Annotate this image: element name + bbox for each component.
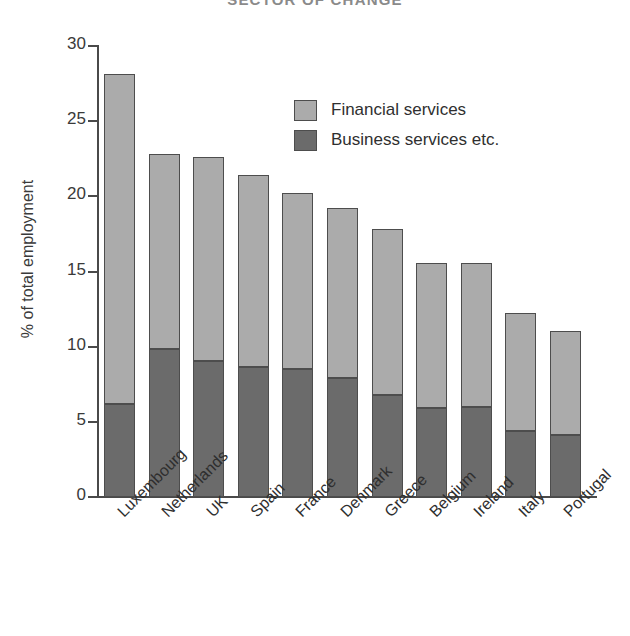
y-tick-label-20: 20 <box>12 184 86 204</box>
bar-belgium[interactable] <box>416 263 447 497</box>
bar-segment-financial-services[interactable] <box>238 175 269 368</box>
bar-segment-financial-services[interactable] <box>282 193 313 369</box>
bar-segment-financial-services[interactable] <box>416 263 447 408</box>
bar-segment-business-services[interactable] <box>282 369 313 497</box>
legend-swatch-business-services <box>294 130 317 151</box>
bar-segment-business-services[interactable] <box>104 404 135 497</box>
y-tick-20 <box>88 195 99 197</box>
bar-greece[interactable] <box>372 229 403 497</box>
y-tick-15 <box>88 271 99 273</box>
legend-swatch-financial-services <box>294 100 317 121</box>
y-tick-0 <box>88 496 99 498</box>
legend-item-business-services: Business services etc. <box>294 127 499 153</box>
y-tick-label-5: 5 <box>12 410 86 430</box>
y-tick-label-0: 0 <box>12 485 86 505</box>
bar-spain[interactable] <box>238 175 269 497</box>
bar-segment-business-services[interactable] <box>550 435 581 497</box>
legend-label-financial-services: Financial services <box>331 100 466 120</box>
y-tick-label-25: 25 <box>12 109 86 129</box>
legend-label-business-services: Business services etc. <box>331 130 499 150</box>
bar-segment-financial-services[interactable] <box>372 229 403 395</box>
bar-uk[interactable] <box>193 157 224 498</box>
bar-segment-business-services[interactable] <box>238 367 269 497</box>
y-tick-30 <box>88 45 99 47</box>
bar-italy[interactable] <box>505 313 536 497</box>
y-tick-label-30: 30 <box>12 34 86 54</box>
y-tick-25 <box>88 120 99 122</box>
bar-denmark[interactable] <box>327 208 358 497</box>
bar-segment-financial-services[interactable] <box>193 157 224 362</box>
legend-item-financial-services: Financial services <box>294 97 499 123</box>
y-tick-10 <box>88 346 99 348</box>
bar-segment-financial-services[interactable] <box>327 208 358 378</box>
bar-luxembourg[interactable] <box>104 74 135 497</box>
chart-plot-area: % of total employment 30 25 20 15 10 5 0… <box>0 0 630 636</box>
bar-segment-financial-services[interactable] <box>461 263 492 406</box>
y-axis-title: % of total employment <box>19 79 37 439</box>
bar-segment-financial-services[interactable] <box>104 74 135 404</box>
bar-france[interactable] <box>282 193 313 497</box>
y-tick-5 <box>88 421 99 423</box>
bar-segment-financial-services[interactable] <box>505 313 536 431</box>
bar-segment-financial-services[interactable] <box>149 154 180 350</box>
bar-portugal[interactable] <box>550 331 581 497</box>
bar-ireland[interactable] <box>461 263 492 497</box>
chart-legend: Financial services Business services etc… <box>294 97 499 157</box>
y-tick-label-10: 10 <box>12 335 86 355</box>
bar-segment-financial-services[interactable] <box>550 331 581 435</box>
y-tick-label-15: 15 <box>12 260 86 280</box>
